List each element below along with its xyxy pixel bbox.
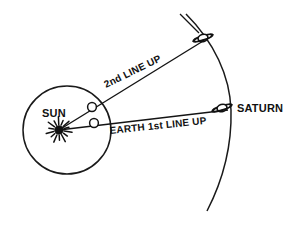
sun-ray [54, 121, 56, 125]
earth-marker-first-line-up [90, 119, 99, 128]
sun-ray [46, 131, 54, 133]
sun-ray [48, 122, 54, 127]
sun-ray [64, 131, 72, 132]
sun-ray [63, 133, 67, 136]
earth-orbit-circle [23, 86, 111, 174]
sun-core [55, 126, 63, 134]
sun-ray [49, 128, 54, 129]
saturn-label: SATURN [237, 102, 283, 114]
sun-ray [51, 134, 55, 137]
saturn-ringed-planet-first [211, 101, 233, 114]
sun-label: SUN [42, 107, 66, 119]
sun-ray [61, 121, 63, 126]
sun-ray [62, 135, 66, 142]
diagram-canvas: SUN SATURN EARTH 1st LINE UP 2nd LINE UP [0, 0, 297, 231]
earth-marker-second-line-up [88, 103, 97, 112]
sun-ray [54, 135, 57, 142]
astronomy-diagram-svg: SUN SATURN EARTH 1st LINE UP 2nd LINE UP [0, 0, 297, 231]
